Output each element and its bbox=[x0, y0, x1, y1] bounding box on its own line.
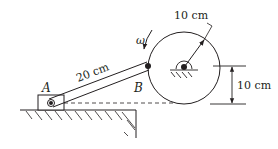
label-disc-radius: 10 cm bbox=[174, 9, 209, 22]
label-a: A bbox=[41, 81, 51, 95]
radius-leader bbox=[204, 23, 212, 40]
angular-velocity-arrow bbox=[144, 30, 152, 49]
label-rod-length: 20 cm bbox=[74, 60, 111, 85]
point-b bbox=[145, 63, 151, 69]
ground-hatching bbox=[26, 111, 135, 136]
radius-arrow bbox=[185, 40, 204, 66]
label-omega: ω bbox=[136, 34, 145, 47]
label-center-height: 10 cm bbox=[237, 79, 272, 92]
mechanism-diagram: A B ω 20 cm 10 cm 10 cm bbox=[0, 0, 278, 149]
ground bbox=[20, 110, 136, 138]
label-b: B bbox=[133, 81, 143, 95]
